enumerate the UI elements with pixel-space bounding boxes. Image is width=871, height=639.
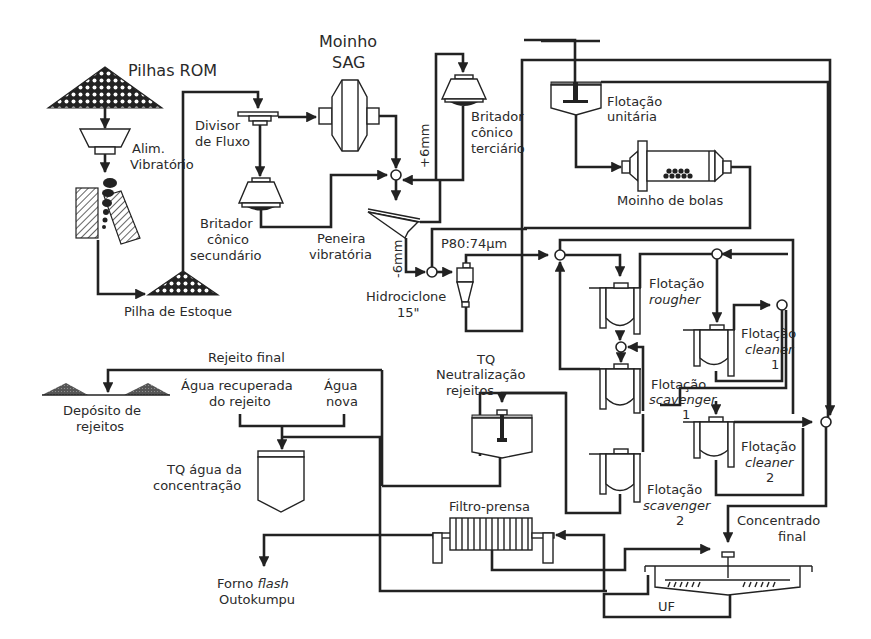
label-cleaner2: cleaner (745, 455, 795, 470)
label-tq: TQ (476, 352, 495, 367)
junction-node (391, 170, 401, 180)
flow-divider-icon (238, 112, 278, 125)
thickener-icon (645, 552, 812, 595)
label-britador-ter: Britador (471, 109, 524, 124)
label-filtro-prensa: Filtro-prensa (449, 499, 530, 514)
label-flotacao-unit: Flotação (607, 94, 662, 109)
label-deposito: Depósito de (63, 403, 141, 418)
label-secundario: secundário (190, 248, 262, 263)
label-do-rejeito: do rejeito (209, 394, 271, 409)
label-nova: nova (326, 394, 358, 409)
neutralization-tank-icon (472, 410, 532, 458)
label-uf: UF (658, 599, 675, 614)
label-de-fluxo: de Fluxo (195, 134, 250, 149)
label-neutralizacao: Neutralização (436, 367, 525, 382)
label-sag: SAG (332, 53, 366, 72)
label-moinho-bolas: Moinho de bolas (617, 193, 724, 208)
rougher-flotation-cell-icon (589, 283, 641, 334)
label-unitaria: unitária (607, 109, 657, 124)
label-pilhas-rom: Pilhas ROM (128, 61, 217, 80)
label-terciario: terciário (471, 141, 525, 156)
label-concentracao: concentração (153, 478, 241, 493)
label-pilha-estoque: Pilha de Estoque (124, 304, 232, 319)
water-tank-icon (258, 451, 304, 512)
label-minus-6mm: -6mm (390, 240, 405, 278)
label-cleaner1: cleaner (745, 342, 795, 357)
tailings-deposit-icon (42, 383, 170, 395)
junction-node (712, 249, 722, 259)
label-outokumpu: Outokumpu (219, 592, 295, 607)
label-forno: Forno flash (217, 576, 289, 591)
label-scavenger2: scavenger (643, 498, 712, 513)
junction-node (616, 342, 626, 352)
label-rougher: rougher (649, 292, 702, 307)
cleaner2-flotation-cell-icon (683, 417, 735, 467)
junction-node (777, 300, 787, 310)
label-final: final (778, 529, 806, 544)
label-flotacao-cleaner2: Flotação (741, 439, 796, 454)
tertiary-cone-crusher-icon (442, 75, 486, 106)
label-p80: P80:74µm (441, 236, 507, 251)
cleaner1-flotation-cell-icon (683, 325, 735, 376)
ball-mill-icon (622, 141, 731, 191)
label-scavenger2-num: 2 (676, 513, 684, 528)
secondary-cone-crusher-icon (239, 178, 283, 211)
junction-node (821, 417, 831, 427)
label-tq-agua: TQ água da (166, 462, 242, 477)
label-moinho: Moinho (319, 32, 377, 51)
label-rejeitos: rejeitos (76, 419, 124, 434)
label-divisor: Divisor (195, 118, 241, 133)
label-flotacao-scav2: Flotação (647, 482, 702, 497)
stockpile-icon (148, 271, 218, 295)
label-rejeito-final: Rejeito final (208, 350, 285, 365)
label-conico-sec: cônico (207, 232, 249, 247)
junction-node (427, 267, 437, 277)
label-alim: Alim. (132, 141, 165, 156)
label-conico-ter: cônico (471, 125, 513, 140)
vibrating-screen-icon (368, 209, 420, 238)
scavenger1-flotation-cell-icon (589, 364, 641, 413)
label-neutr-rejeitos: rejeitos (446, 383, 494, 398)
label-peneira: Peneira (317, 231, 366, 246)
jaw-crusher-icon (76, 178, 140, 244)
label-hidrociclone: Hidrociclone (366, 289, 446, 304)
label-concentrado: Concentrado (737, 513, 820, 528)
label-scavenger1: scavenger (649, 392, 718, 407)
label-plus-6mm: +6mm (417, 124, 432, 169)
unit-flotation-cell-icon (551, 82, 601, 115)
label-cleaner2-num: 2 (766, 470, 774, 485)
vibrating-feeder-icon (80, 129, 130, 154)
label-flotacao-cleaner1: Flotação (741, 326, 796, 341)
label-cleaner1-num: 1 (771, 357, 779, 372)
scavenger2-flotation-cell-icon (589, 449, 641, 502)
sag-mill-icon (319, 80, 379, 151)
junction-node (555, 250, 565, 260)
label-britador-sec: Britador (200, 216, 253, 231)
hydrocyclone-icon (457, 263, 473, 307)
label-flotacao-rougher: Flotação (649, 276, 704, 291)
label-agua: Água (324, 378, 357, 393)
label-flotacao-scav1: Flotação (651, 377, 706, 392)
label-15-pol: 15" (397, 305, 420, 320)
label-scavenger1-num: 1 (682, 407, 690, 422)
label-agua-recuperada: Água recuperada (181, 378, 293, 393)
filter-press-icon (433, 518, 554, 563)
label-vibratoria: vibratória (309, 247, 372, 262)
flowsheet-diagram: Pilhas ROM Alim. Vibratório Pilha de Est… (0, 0, 871, 639)
